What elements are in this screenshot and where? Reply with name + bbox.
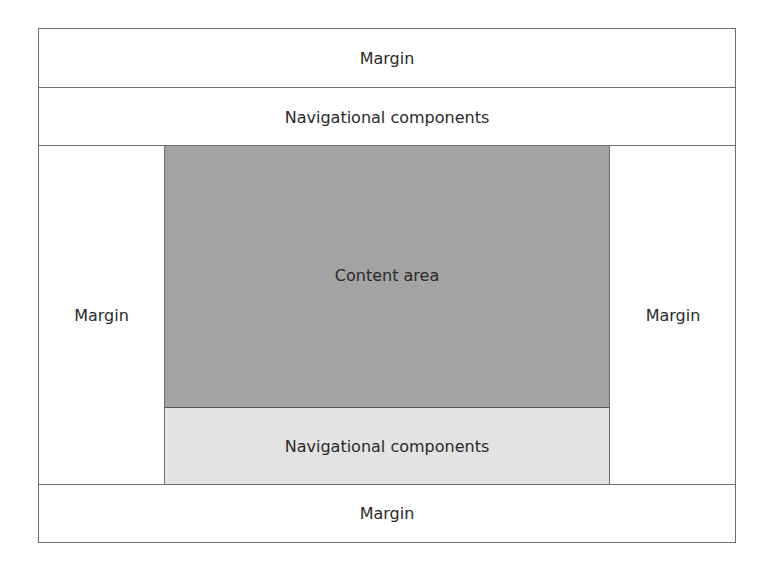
top-margin-label: Margin	[360, 49, 415, 68]
left-margin-label: Margin	[74, 306, 129, 325]
bottom-margin-region: Margin	[39, 485, 735, 542]
content-area-region: Content area	[164, 146, 610, 408]
right-margin-region: Margin	[610, 146, 736, 485]
top-margin-region: Margin	[39, 29, 735, 88]
right-margin-label: Margin	[646, 306, 701, 325]
left-margin-region: Margin	[39, 146, 164, 485]
bottom-margin-label: Margin	[360, 504, 415, 523]
content-area-label: Content area	[335, 266, 439, 285]
bottom-nav-region: Navigational components	[164, 408, 610, 485]
top-nav-region: Navigational components	[39, 88, 735, 146]
bottom-nav-label: Navigational components	[285, 437, 489, 456]
top-nav-label: Navigational components	[285, 108, 489, 127]
page-layout-diagram: Margin Navigational components Margin Co…	[38, 28, 736, 543]
